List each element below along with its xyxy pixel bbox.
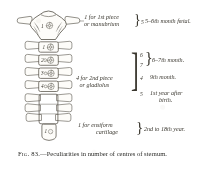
annotation-group-ensiform: 1 for ensiform cartilage [78,122,136,136]
annotation-number-gladiolus-7: 7 [140,62,143,68]
bone-part-manubrium: 1 [17,11,80,40]
annotation-group-line1: 4 for 2nd piece [76,75,113,82]
bone-part-gladiolus-seg-1: 1 [25,41,72,52]
annotation-stage-manubrium: 5–6th month fœtal. [145,18,191,25]
annotation-stage-1st-year-line2: birth. [159,97,172,104]
caption-dash: — [40,150,47,157]
annotation-group-line1: 1 for ensiform [78,122,136,129]
annotation-stage-gladiolus-6-7: 6–7th month. [152,57,184,64]
bone-part-gladiolus-seg-3: 3 [25,68,72,79]
centre-number-ensiform: 1 [44,128,47,134]
annotation-number-1st-year: 5 [140,91,143,97]
bone-part-gladiolus-seg-2: 2 [25,54,72,65]
annotation-group-line2: cartilage [78,129,136,136]
figure-sternum-ossification: 1 1 2 [0,0,214,173]
centre-number-manubrium: 1 [41,23,44,29]
bone-part-gladiolus-seg-4: 4 [25,81,72,92]
caption-figure-number: Fig. 83. [18,150,40,157]
centre-number-seg-2: 2 [41,57,44,63]
annotation-stage-9th-month: 9th month. [150,74,176,81]
annotation-number-manubrium: 5 [141,19,144,25]
annotation-stage-1st-year-line1: 1st year after [150,90,183,96]
annotation-group-line2: or gladiolus [76,82,113,89]
annotation-number-gladiolus-6: 6 [140,52,143,58]
annotation-stage-ensiform: 2nd to 18th year. [144,126,185,133]
centre-number-seg-4: 4 [41,83,44,89]
annotation-group-gladiolus: 4 for 2nd piece or gladiolus [76,75,113,89]
annotation-stage-1st-year: 1st year after birth. [150,90,183,104]
annotation-number-9th-month: 4 [140,75,143,81]
centre-number-seg-1: 1 [43,44,46,50]
figure-caption: Fig. 83.—Peculiarities in number of cent… [4,150,210,159]
brace-ensiform: } [136,120,143,135]
centre-number-seg-3: 3 [41,70,44,76]
caption-text: Peculiarities in number of centres of st… [47,150,167,157]
annotation-group-line1: 1 for 1st piece [84,14,119,21]
bone-part-ensiform-cartilage: 1 [42,124,56,140]
annotation-group-manubrium: 1 for 1st piece or manubrium [84,14,119,28]
brace-gladiolus-span: ] [131,47,139,93]
brace-manubrium: } [134,13,141,27]
costal-notches-lower [25,94,72,124]
annotation-group-line2: or manubrium [84,21,119,28]
